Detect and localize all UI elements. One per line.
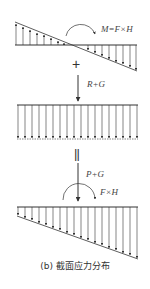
combined-moment-label: F×H — [100, 188, 118, 197]
combined-stress-arrows — [18, 207, 137, 258]
plus-operator: + — [72, 57, 80, 71]
stress-envelope-line — [17, 216, 138, 259]
moment-arc-icon — [66, 24, 95, 36]
upward-stress-arrows — [16, 24, 64, 45]
combined-force-label: P+G — [86, 170, 104, 179]
downward-stress-arrows — [88, 45, 136, 70]
axial-stress-panel — [17, 75, 138, 139]
figure-caption: (b) 截面应力分布 — [0, 262, 150, 271]
combined-moment-arc-icon — [63, 184, 95, 200]
uniform-stress-arrows — [18, 105, 137, 138]
combined-stress-panel — [17, 163, 138, 259]
moment-label: M=F×H — [101, 25, 133, 34]
axial-force-label: R+G — [87, 80, 105, 89]
equals-operator: || — [74, 147, 79, 160]
stress-distribution-diagram — [0, 0, 150, 289]
